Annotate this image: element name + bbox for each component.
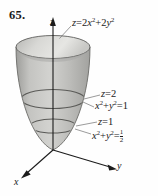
circle1-value: 1 [123, 100, 128, 111]
paraboloid-drawing [0, 0, 158, 196]
circlehalf-denominator: 2 [120, 136, 124, 144]
axis-y [53, 150, 117, 170]
paraboloid-figure: 65. z=2x2+2y2 z=2 x2+y2=1 z=1 x2+y2= 1 2… [0, 0, 158, 196]
problem-number: 65. [9, 9, 25, 22]
surface-eq-exp2: 2 [111, 16, 114, 23]
surface-equation-label: z=2x2+2y2 [72, 18, 114, 29]
circle-radius1-label: x2+y2=1 [95, 101, 128, 112]
axis-x-label: x [14, 177, 18, 187]
plane-z2-value: 2 [111, 88, 116, 99]
plane-z1-label: z=1 [98, 117, 113, 128]
axis-z-label: z [50, 17, 54, 27]
circlehalf-fraction: 1 2 [120, 129, 124, 145]
plane-z1-value: 1 [108, 116, 113, 127]
circlehalf-numerator: 1 [120, 129, 124, 136]
circle-radius-half-label: x2+y2= 1 2 [92, 129, 123, 145]
axis-y-label: y [117, 161, 121, 171]
axis-x [21, 150, 53, 179]
